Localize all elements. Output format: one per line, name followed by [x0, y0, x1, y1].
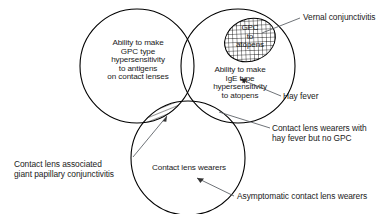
leader-contact-lens-hayfever-no-gpc [219, 112, 270, 128]
callout-label-asymptomatic-contact-lens-wearers: Asymptomatic contact lens wearers [237, 192, 367, 202]
callout-label-contact-lens-associated-gpc: Contact lens associated giant papillary … [14, 160, 114, 179]
leader-asymptomatic [197, 178, 234, 196]
region-gpc-to-atopens-fill [218, 11, 282, 69]
callout-label-hay-fever: Hay fever [283, 92, 318, 102]
leader-contact-lens-associated-gpc [133, 116, 167, 157]
venn-diagram-canvas [0, 0, 390, 214]
callout-label-vernal-conjunctivitis: Vernal conjunctivitis [303, 13, 376, 23]
callout-label-contact-lens-hayfever-no-gpc: Contact lens wearers with hay fever but … [272, 124, 367, 143]
circle-contact-lens-wearers [131, 101, 245, 214]
venn-diagram-figure: Ability to make GPC type hypersensitivit… [0, 0, 390, 214]
leader-hay-fever [240, 79, 281, 97]
